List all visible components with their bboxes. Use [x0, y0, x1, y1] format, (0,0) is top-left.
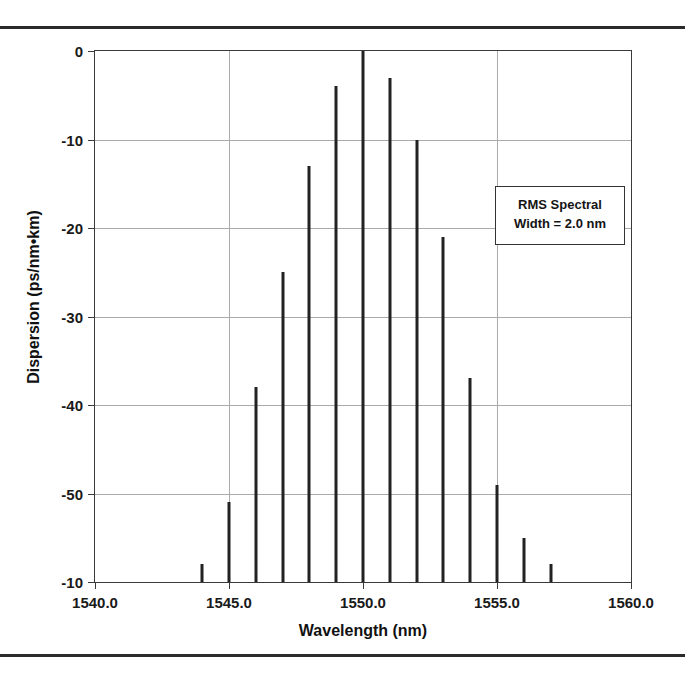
y-axis-tick: [88, 228, 95, 229]
y-axis-tick: [88, 494, 95, 495]
x-axis-tick-label: 1560.0: [608, 594, 654, 611]
x-axis-tick: [95, 582, 96, 589]
x-axis-tick-label: 1540.0: [72, 594, 118, 611]
x-axis-tick-label: 1555.0: [474, 594, 520, 611]
spectral-line: [522, 538, 525, 582]
spectral-line: [228, 502, 231, 582]
clipped-caption-text: [0, 0, 685, 16]
y-axis-tick-label: -20: [61, 220, 83, 237]
y-axis-tick-label: -30: [61, 308, 83, 325]
spectral-line: [308, 166, 311, 582]
x-axis-tick-label: 1545.0: [206, 594, 252, 611]
y-axis-tick-label: -50: [61, 485, 83, 502]
x-axis-tick: [363, 582, 364, 589]
spectral-line: [254, 387, 257, 582]
spectral-line: [415, 140, 418, 583]
spectral-line: [469, 378, 472, 582]
y-axis-tick: [88, 140, 95, 141]
spectral-line: [201, 564, 204, 582]
spectral-line: [549, 564, 552, 582]
x-axis-title: Wavelength (nm): [94, 622, 632, 640]
y-axis-tick-label: -40: [61, 397, 83, 414]
annotation-line-2: Width = 2.0 nm: [502, 215, 618, 234]
top-horizontal-rule: [0, 26, 685, 29]
x-axis-tick: [497, 582, 498, 589]
bottom-horizontal-rule: [0, 654, 685, 657]
y-axis-tick-label: -10: [61, 574, 83, 591]
spectral-line: [281, 272, 284, 582]
y-axis-tick-label: 0: [75, 43, 83, 60]
y-axis-tick: [88, 317, 95, 318]
spectral-line: [442, 237, 445, 582]
y-axis-tick-label: -10: [61, 131, 83, 148]
x-axis-tick: [229, 582, 230, 589]
y-axis-tick: [88, 51, 95, 52]
annotation-line-1: RMS Spectral: [502, 196, 618, 215]
rms-spectral-width-annotation: RMS Spectral Width = 2.0 nm: [495, 186, 625, 245]
spectral-line: [388, 78, 391, 582]
y-axis-tick: [88, 582, 95, 583]
x-axis-tick: [631, 582, 632, 589]
figure: 0-10-20-30-40-50-101540.01545.01550.0155…: [0, 0, 685, 677]
x-axis-tick-label: 1550.0: [340, 594, 386, 611]
spectral-line: [335, 86, 338, 582]
spectral-line: [362, 51, 365, 582]
plot-area: 0-10-20-30-40-50-101540.01545.01550.0155…: [94, 50, 632, 583]
y-axis-title: Dispersion (ps/nm•km): [25, 137, 43, 457]
y-axis-tick: [88, 405, 95, 406]
spectral-line: [496, 485, 499, 582]
